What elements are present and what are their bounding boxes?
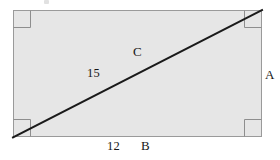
label-side-a: A [265,68,275,81]
label-base-value: 12 [107,140,120,153]
geometry-figure: 15 C A 12 B [0,0,280,160]
label-hypotenuse-name: C [133,45,142,58]
label-hypotenuse-value: 15 [87,67,100,80]
figure-canvas [0,0,280,160]
label-base-name: B [141,139,150,152]
